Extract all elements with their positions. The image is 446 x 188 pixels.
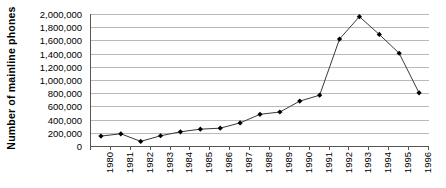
- x-axis-tick-mark: [249, 146, 250, 150]
- x-axis-tick-label: 1981: [124, 152, 135, 173]
- x-axis: 1980198119821983198419851986198719881989…: [90, 146, 428, 188]
- x-axis-tick-mark: [428, 146, 429, 150]
- data-point-marker: [178, 129, 183, 134]
- x-axis-tick-mark: [309, 146, 310, 150]
- x-axis-tick-mark: [130, 146, 131, 150]
- data-point-marker: [416, 90, 421, 95]
- y-axis-tick-label: 1,200,000: [40, 61, 82, 72]
- x-axis-tick-mark: [329, 146, 330, 150]
- x-axis-tick-label: 1986: [223, 152, 234, 173]
- data-point-marker: [218, 126, 223, 131]
- series-polyline: [101, 17, 419, 142]
- x-axis-tick-label: 1983: [164, 152, 175, 173]
- x-axis-tick-label: 1984: [183, 152, 194, 173]
- data-point-marker: [198, 127, 203, 132]
- y-axis-title: Number of mainline phones: [0, 0, 22, 155]
- x-axis-tick-label: 1991: [323, 152, 334, 173]
- y-axis-tick-labels: 2,000,0001,800,0001,600,0001,400,0001,20…: [22, 0, 86, 160]
- x-axis-tick-label: 1989: [283, 152, 294, 173]
- data-point-marker: [257, 112, 262, 117]
- x-axis-tick-mark: [150, 146, 151, 150]
- x-axis-tick-label: 1985: [203, 152, 214, 173]
- data-point-marker: [98, 134, 103, 139]
- x-axis-tick-label: 1994: [382, 152, 393, 173]
- y-axis-tick-label: 200,000: [48, 127, 82, 138]
- y-axis-tick-label: 800,000: [48, 88, 82, 99]
- plot-area: [90, 14, 429, 146]
- y-axis-tick-label: 1,800,000: [40, 22, 82, 33]
- x-axis-tick-mark: [388, 146, 389, 150]
- x-axis-tick-label: 1993: [362, 152, 373, 173]
- x-axis-tick-mark: [229, 146, 230, 150]
- x-axis-tick-label: 1988: [263, 152, 274, 173]
- data-point-marker: [138, 139, 143, 144]
- y-axis-tick-label: 1,400,000: [40, 48, 82, 59]
- x-axis-tick-label: 1980: [104, 152, 115, 173]
- x-axis-tick-mark: [408, 146, 409, 150]
- data-point-marker: [158, 133, 163, 138]
- x-axis-tick-label: 1992: [343, 152, 354, 173]
- line-chart-figure: Number of mainline phones 2,000,0001,800…: [0, 0, 446, 188]
- x-axis-tick-label: 1990: [303, 152, 314, 173]
- x-axis-tick-label: 1995: [402, 152, 413, 173]
- x-axis-tick-mark: [368, 146, 369, 150]
- x-axis-tick-label: 1987: [243, 152, 254, 173]
- y-axis-tick-label: 1,000,000: [40, 75, 82, 86]
- data-series-line: [91, 14, 429, 146]
- x-axis-tick-mark: [90, 146, 91, 150]
- y-axis-tick-label: 600,000: [48, 101, 82, 112]
- y-axis-title-label: Number of mainline phones: [5, 6, 17, 149]
- x-axis-tick-mark: [110, 146, 111, 150]
- x-axis-tick-mark: [170, 146, 171, 150]
- y-axis-tick-label: 400,000: [48, 114, 82, 125]
- x-axis-tick-mark: [269, 146, 270, 150]
- x-axis-tick-mark: [348, 146, 349, 150]
- y-axis-tick-label: 0: [77, 141, 82, 152]
- data-point-marker: [238, 120, 243, 125]
- x-axis-tick-label: 1982: [144, 152, 155, 173]
- x-axis-tick-mark: [209, 146, 210, 150]
- data-point-marker: [277, 109, 282, 114]
- x-axis-tick-mark: [289, 146, 290, 150]
- data-point-marker: [118, 131, 123, 136]
- y-axis-tick-label: 1,600,000: [40, 35, 82, 46]
- y-axis-tick-label: 2,000,000: [40, 9, 82, 20]
- x-axis-tick-mark: [189, 146, 190, 150]
- data-point-marker: [297, 99, 302, 104]
- x-axis-tick-label: 1996: [422, 152, 433, 173]
- data-point-marker: [317, 93, 322, 98]
